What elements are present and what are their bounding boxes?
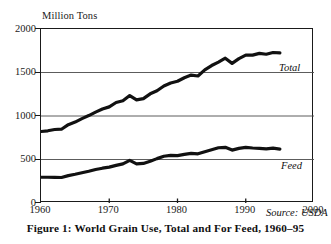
plot-svg <box>41 29 314 203</box>
plot-area: Total Feed Source: USDA <box>40 28 313 202</box>
figure-container: Million Tons 2000150010005000 Total Feed… <box>0 0 331 244</box>
series-line-total <box>41 52 280 131</box>
x-axis-tick-label: 1980 <box>157 203 197 216</box>
x-axis-tick-label: 1970 <box>88 203 128 216</box>
x-axis-tick-label-group: 19601970198019902000 <box>0 203 331 219</box>
y-axis-tick-label: 2000 <box>2 23 36 34</box>
y-axis-tick-label: 500 <box>2 153 36 164</box>
x-axis-tick-label: 2000 <box>293 203 331 216</box>
series-label-feed: Feed <box>281 160 302 172</box>
y-axis-unit-label: Million Tons <box>42 10 97 22</box>
y-axis-tick-label: 1000 <box>2 110 36 121</box>
series-label-total: Total <box>279 62 300 74</box>
x-axis-tick-label: 1990 <box>225 203 265 216</box>
figure-caption: Figure 1: World Grain Use, Total and For… <box>0 221 331 235</box>
x-axis-tick-label: 1960 <box>20 203 60 216</box>
series-line-feed <box>41 147 280 177</box>
y-axis-tick-label: 1500 <box>2 66 36 77</box>
